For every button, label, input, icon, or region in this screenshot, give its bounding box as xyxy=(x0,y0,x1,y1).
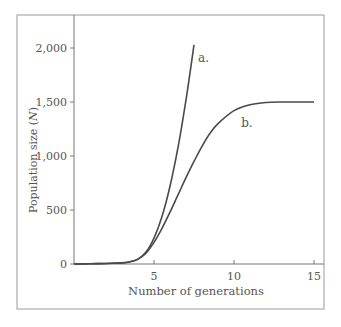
y-tick-label: 500 xyxy=(46,204,67,217)
curve-label: a. xyxy=(198,51,209,65)
series-line-a xyxy=(74,45,194,264)
y-ticks: 05001,0001,5002,000 xyxy=(36,42,75,271)
chart: 05001,0001,5002,000 51015 Population siz… xyxy=(0,0,341,327)
x-tick-label: 5 xyxy=(151,270,158,283)
series-group xyxy=(74,45,314,264)
x-axis-label: Number of generations xyxy=(128,284,264,298)
series-line-b xyxy=(74,102,314,264)
y-tick-label: 1,500 xyxy=(36,96,68,109)
x-tick-label: 15 xyxy=(307,270,321,283)
y-tick-label: 0 xyxy=(60,258,67,271)
curve-label: b. xyxy=(241,116,253,130)
x-tick-label: 10 xyxy=(227,270,241,283)
y-tick-label: 1,000 xyxy=(36,150,68,163)
y-tick-label: 2,000 xyxy=(36,42,68,55)
y-axis-label: Population size (N) xyxy=(27,107,40,213)
x-ticks: 51015 xyxy=(151,260,322,283)
